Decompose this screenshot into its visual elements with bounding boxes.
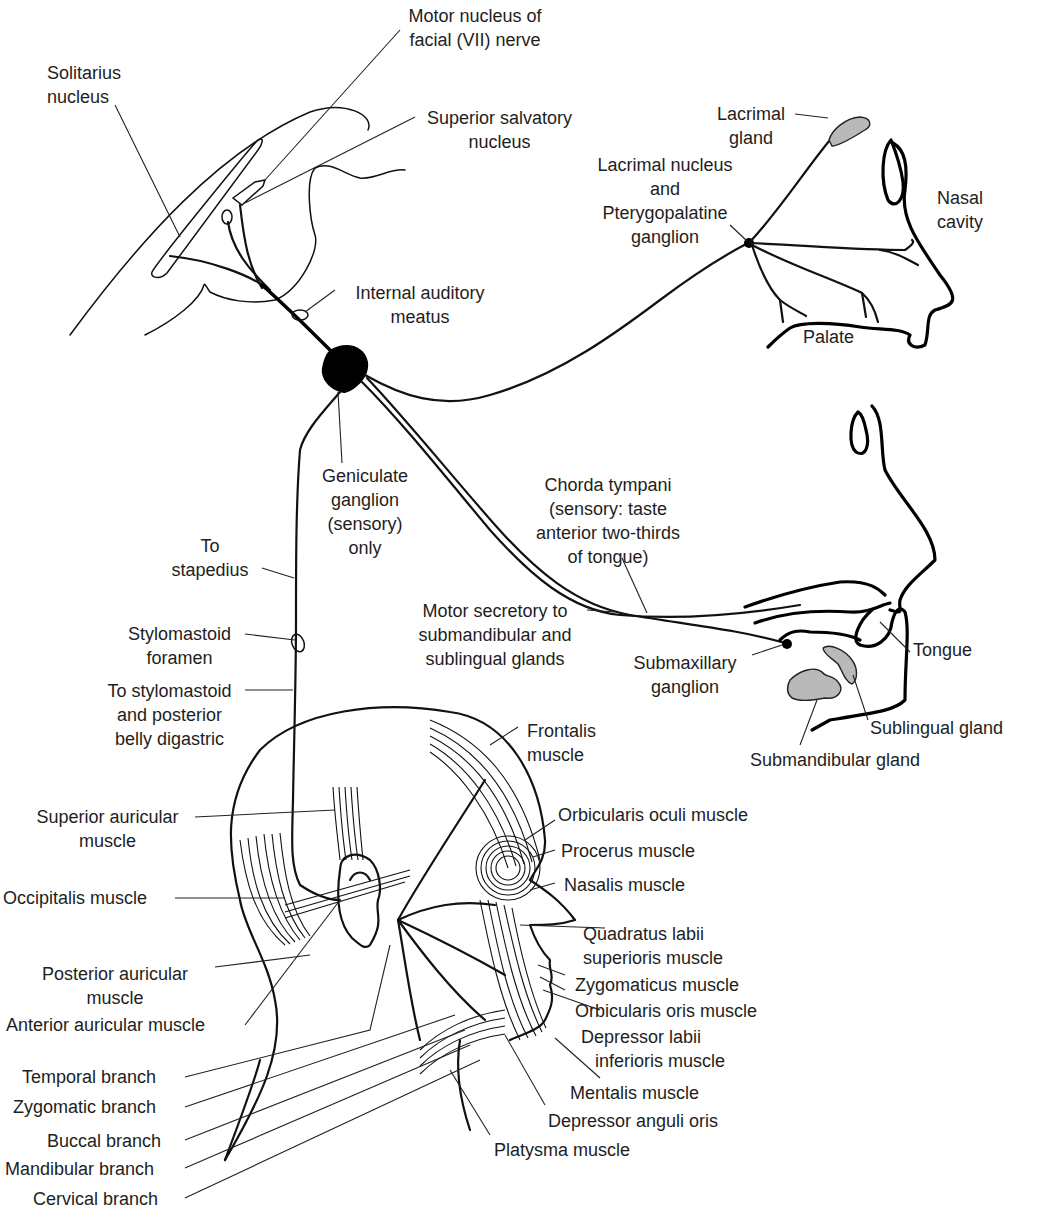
label-line: ganglion xyxy=(310,488,420,512)
label-line: Submandibular gland xyxy=(750,748,920,772)
label-to-stylomastoid: To stylomastoid and posterior belly diga… xyxy=(92,679,247,751)
label-line: submandibular and xyxy=(400,623,590,647)
label-line: Lacrimal xyxy=(706,102,796,126)
submaxillary-ganglion xyxy=(782,639,792,649)
label-buccal-branch: Buccal branch xyxy=(47,1129,161,1153)
label-line: Zygomatic branch xyxy=(13,1095,156,1119)
label-line: Temporal branch xyxy=(22,1065,156,1089)
label-tongue: Tongue xyxy=(913,638,972,662)
label-frontalis-muscle: Frontalis muscle xyxy=(527,719,596,767)
label-line: Orbicularis oris muscle xyxy=(575,999,757,1023)
label-line: Nasal xyxy=(925,186,995,210)
label-line: Sublingual gland xyxy=(870,716,1003,740)
label-line: Superior auricular xyxy=(20,805,195,829)
label-submandibular-gland: Submandibular gland xyxy=(750,748,920,772)
label-line: (sensory: taste xyxy=(518,497,698,521)
label-line: ganglion xyxy=(620,675,750,699)
label-line: Internal auditory xyxy=(340,281,500,305)
lower-face-muscle-fibers xyxy=(420,900,546,1074)
ear xyxy=(338,855,380,947)
label-superior-salvatory: Superior salvatory nucleus xyxy=(412,106,587,154)
label-quadratus-labii: Quadratus labii superioris muscle xyxy=(583,922,723,970)
label-line: Frontalis xyxy=(527,719,596,743)
label-motor-secretory: Motor secretory to submandibular and sub… xyxy=(400,599,590,671)
label-line: Occipitalis muscle xyxy=(3,886,147,910)
label-line: Depressor anguli oris xyxy=(548,1109,718,1133)
label-to-stapedius: To stapedius xyxy=(160,534,260,582)
label-line: Quadratus labii xyxy=(583,922,723,946)
label-line: and posterior xyxy=(92,703,247,727)
label-posterior-auricular: Posterior auricular muscle xyxy=(25,962,205,1010)
label-line: Mentalis muscle xyxy=(570,1081,699,1105)
posterior-auricular-fibers xyxy=(285,870,410,918)
occipitalis-muscle-fibers xyxy=(240,833,310,945)
label-line: cavity xyxy=(925,210,995,234)
upper-face-profile xyxy=(768,140,953,347)
label-geniculate-ganglion: Geniculate ganglion (sensory) only xyxy=(310,464,420,560)
label-temporal-branch: Temporal branch xyxy=(22,1065,156,1089)
label-line: anterior two-thirds xyxy=(518,521,698,545)
label-cervical-branch: Cervical branch xyxy=(33,1187,158,1211)
label-mentalis: Mentalis muscle xyxy=(570,1081,699,1105)
label-chorda-tympani: Chorda tympani (sensory: taste anterior … xyxy=(518,473,698,569)
facial-nerve-branches xyxy=(398,780,505,1040)
label-line: Submaxillary xyxy=(620,651,750,675)
label-line: belly digastric xyxy=(92,727,247,751)
label-line: Cervical branch xyxy=(33,1187,158,1211)
submandibular-gland xyxy=(788,669,841,700)
label-line: Motor nucleus of xyxy=(390,4,560,28)
label-mandibular-branch: Mandibular branch xyxy=(5,1157,154,1181)
label-line: stapedius xyxy=(160,558,260,582)
label-superior-auricular-muscle: Superior auricular muscle xyxy=(20,805,195,853)
label-platysma: Platysma muscle xyxy=(494,1138,630,1162)
label-line: Pterygopalatine xyxy=(580,201,750,225)
label-line: nucleus xyxy=(412,130,587,154)
label-lacrimal-nucleus: Lacrimal nucleus and Pterygopalatine gan… xyxy=(580,153,750,249)
label-zygomatic-branch: Zygomatic branch xyxy=(13,1095,156,1119)
label-line: Solitarius xyxy=(47,61,121,85)
label-orbicularis-oris: Orbicularis oris muscle xyxy=(575,999,757,1023)
label-line: Stylomastoid xyxy=(112,622,247,646)
label-solitarius-nucleus: Solitarius nucleus xyxy=(47,61,121,109)
label-line: Posterior auricular xyxy=(25,962,205,986)
label-procerus: Procerus muscle xyxy=(561,839,695,863)
label-line: and xyxy=(580,177,750,201)
label-line: Chorda tympani xyxy=(518,473,698,497)
label-zygomaticus: Zygomaticus muscle xyxy=(575,973,739,997)
label-sublingual-gland: Sublingual gland xyxy=(870,716,1003,740)
central-nerve-fibers xyxy=(170,205,335,355)
label-line: Motor secretory to xyxy=(400,599,590,623)
label-line: Buccal branch xyxy=(47,1129,161,1153)
label-orbicularis-oculi: Orbicularis oculi muscle xyxy=(558,803,748,827)
label-line: superioris muscle xyxy=(583,946,723,970)
label-nasalis: Nasalis muscle xyxy=(564,873,685,897)
geniculate-ganglion xyxy=(322,345,368,393)
label-motor-nucleus: Motor nucleus of facial (VII) nerve xyxy=(390,4,560,52)
label-line: Procerus muscle xyxy=(561,839,695,863)
label-line: sublingual glands xyxy=(400,647,590,671)
label-line: To stylomastoid xyxy=(92,679,247,703)
label-palate: Palate xyxy=(803,325,854,349)
label-lacrimal-gland: Lacrimal gland xyxy=(706,102,796,150)
label-line: Geniculate xyxy=(310,464,420,488)
label-line: muscle xyxy=(25,986,205,1010)
label-line: Mandibular branch xyxy=(5,1157,154,1181)
label-depressor-anguli: Depressor anguli oris xyxy=(548,1109,718,1133)
label-line: Lacrimal nucleus xyxy=(580,153,750,177)
label-line: Nasalis muscle xyxy=(564,873,685,897)
label-line: Palate xyxy=(803,325,854,349)
label-submaxillary-ganglion: Submaxillary ganglion xyxy=(620,651,750,699)
superior-auricular-fibers xyxy=(333,787,363,860)
label-line: of tongue) xyxy=(518,545,698,569)
label-line: muscle xyxy=(20,829,195,853)
label-line: meatus xyxy=(340,305,500,329)
label-line: Tongue xyxy=(913,638,972,662)
label-stylomastoid-foramen: Stylomastoid foramen xyxy=(112,622,247,670)
label-line: Superior salvatory xyxy=(412,106,587,130)
label-anterior-auricular: Anterior auricular muscle xyxy=(6,1013,205,1037)
pterygopalatine-branches xyxy=(744,140,918,322)
label-depressor-labii: Depressor labii inferioris muscle xyxy=(581,1025,725,1073)
label-line: inferioris muscle xyxy=(581,1049,725,1073)
label-line: ganglion xyxy=(580,225,750,249)
label-line: Platysma muscle xyxy=(494,1138,630,1162)
